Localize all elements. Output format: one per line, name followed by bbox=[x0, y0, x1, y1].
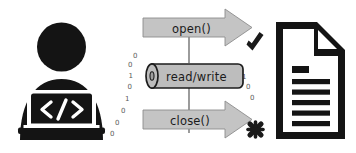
file-io-diagram: 0 0 0 1 0 1 0 0 1 0 0 open() read/write bbox=[0, 0, 356, 153]
document-icon bbox=[0, 0, 356, 153]
